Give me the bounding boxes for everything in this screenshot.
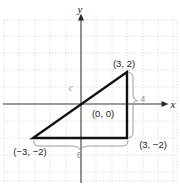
vertex-label-bottom-right: (3, −2) (139, 139, 167, 150)
vertical-leg-length-label: 4 (141, 94, 146, 104)
coordinate-plane-figure: y x (3, 2) (0, 0) (−3, −2) (3, −2) c 4 6 (0, 0, 180, 189)
vertex-label-bottom-left: (−3, −2) (13, 146, 46, 157)
x-axis-label: x (170, 98, 176, 110)
vertex-label-top-right: (3, 2) (113, 58, 135, 69)
origin-label: (0, 0) (92, 108, 114, 119)
triangle-diagram-svg: y x (3, 2) (0, 0) (−3, −2) (3, −2) c 4 6 (0, 0, 180, 189)
x-axis-arrow-icon (162, 101, 169, 107)
right-triangle (33, 72, 127, 138)
y-axis-label: y (77, 3, 83, 15)
hypotenuse-label: c (69, 82, 74, 93)
vertical-leg-brace (129, 73, 138, 138)
horizontal-leg-length-label: 6 (77, 150, 82, 160)
